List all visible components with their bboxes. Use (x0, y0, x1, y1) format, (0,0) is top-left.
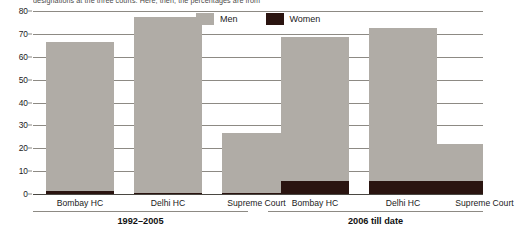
ytick-label-20: 20 (19, 144, 28, 152)
bar-bombay-hc-1992-2005-women-segment (46, 191, 114, 194)
gridline-80 (33, 11, 483, 12)
bar-supreme-court-2006-men-segment (415, 144, 483, 182)
bar-delhi-hc-1992-2005 (134, 17, 202, 195)
bar-delhi-hc-1992-2005-women-segment (134, 193, 202, 194)
bar-bombay-hc-2006 (281, 37, 349, 194)
catlabel-supreme-court-2: Supreme Court (437, 196, 519, 211)
bar-bombay-hc-1992-2005 (46, 42, 114, 194)
ytick-label-70: 70 (19, 30, 28, 38)
bar-supreme-court-1992-2005 (222, 133, 290, 194)
bar-delhi-hc-1992-2005-men-segment (134, 17, 202, 193)
bar-bombay-hc-2006-men-segment (281, 37, 349, 181)
plot-area: 01020304050607080 (33, 11, 483, 194)
ytick-label-50: 50 (19, 75, 28, 83)
bar-bombay-hc-1992-2005-men-segment (46, 42, 114, 191)
ytick-dash-80 (28, 11, 32, 12)
bar-bombay-hc-2006-women-segment (281, 181, 349, 194)
ytick-label-40: 40 (19, 98, 28, 106)
legend-swatch-women-icon (266, 13, 284, 25)
ytick-label-80: 80 (19, 7, 28, 15)
chart-caption-text: designations at the three courts. Here, … (33, 0, 453, 5)
catlabel-delhi-hc-1: Delhi HC (127, 196, 209, 211)
group-1992-2005-rule (33, 211, 248, 212)
ytick-label-0: 0 (23, 190, 28, 198)
gridline-0 (33, 194, 483, 195)
ytick-dash-60 (28, 56, 32, 57)
ytick-dash-50 (28, 79, 32, 80)
group-1992-2005-label: 1992–2005 (33, 214, 248, 228)
category-axis: Bombay HCDelhi HCSupreme CourtBombay HCD… (33, 196, 483, 212)
ytick-dash-20 (28, 148, 32, 149)
legend-item-men: Men (196, 13, 238, 25)
legend-label-men: Men (220, 15, 238, 24)
ytick-label-30: 30 (19, 121, 28, 129)
ytick-dash-0 (28, 194, 32, 195)
legend-swatch-men-icon (196, 13, 214, 25)
chart-legend: Men Women (196, 13, 320, 25)
ytick-label-60: 60 (19, 53, 28, 61)
group-2006-till-date-label: 2006 till date (268, 214, 483, 228)
bar-supreme-court-1992-2005-men-segment (222, 133, 290, 192)
ytick-dash-40 (28, 102, 32, 103)
catlabel-delhi-hc-2: Delhi HC (362, 196, 444, 211)
bar-supreme-court-1992-2005-women-segment (222, 193, 290, 194)
bar-supreme-court-2006 (415, 144, 483, 194)
catlabel-bombay-hc-2: Bombay HC (268, 196, 362, 211)
legend-label-women: Women (290, 15, 321, 24)
group-2006-till-date-rule (268, 211, 483, 212)
legend-item-women: Women (266, 13, 321, 25)
bar-supreme-court-2006-women-segment (415, 181, 483, 194)
chart-caption: designations at the three courts. Here, … (33, 0, 453, 5)
ytick-dash-30 (28, 125, 32, 126)
ytick-dash-10 (28, 171, 32, 172)
ytick-dash-70 (28, 33, 32, 34)
catlabel-bombay-hc-1: Bombay HC (33, 196, 127, 211)
ytick-label-10: 10 (19, 167, 28, 175)
